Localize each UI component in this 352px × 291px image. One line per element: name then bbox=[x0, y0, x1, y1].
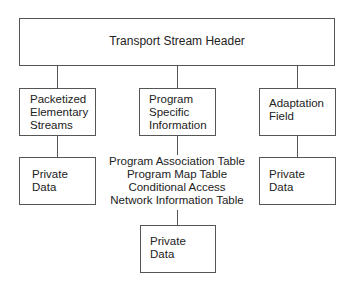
adaptation-private-data-box: Private Data bbox=[259, 157, 336, 205]
psi-private-line-1: Private bbox=[150, 235, 186, 248]
connector-psi-tables bbox=[177, 135, 178, 155]
adaptation-line-1: Adaptation bbox=[269, 97, 324, 110]
pes-line-1: Packetized bbox=[30, 93, 88, 106]
psi-label: Program Specific Information bbox=[149, 93, 207, 132]
psi-private-data-label: Private Data bbox=[150, 235, 186, 261]
psi-table-nit: Network Information Table bbox=[107, 194, 247, 207]
psi-private-data-box: Private Data bbox=[140, 225, 216, 273]
connector-header-adaptation bbox=[297, 65, 298, 88]
psi-box: Program Specific Information bbox=[139, 88, 216, 136]
pes-private-data-box: Private Data bbox=[19, 157, 96, 205]
pes-private-line-1: Private bbox=[32, 168, 68, 181]
pes-box: Packetized Elementary Streams bbox=[19, 88, 96, 136]
adaptation-field-label: Adaptation Field bbox=[269, 97, 324, 123]
psi-table-pat: Program Association Table bbox=[107, 155, 247, 168]
connector-pes-private bbox=[57, 135, 58, 157]
adaptation-line-2: Field bbox=[269, 110, 324, 123]
adaptation-private-line-1: Private bbox=[269, 168, 305, 181]
adaptation-field-box: Adaptation Field bbox=[259, 88, 336, 136]
pes-private-data-label: Private Data bbox=[32, 168, 68, 194]
pes-line-3: Streams bbox=[30, 119, 88, 132]
pes-private-line-2: Data bbox=[32, 181, 68, 194]
psi-tables-list: Program Association Table Program Map Ta… bbox=[107, 155, 247, 207]
connector-header-psi bbox=[177, 65, 178, 88]
transport-stream-header-box: Transport Stream Header bbox=[19, 18, 335, 66]
connector-adaptation-private bbox=[297, 135, 298, 157]
connector-header-pes bbox=[57, 65, 58, 88]
psi-table-pmt: Program Map Table bbox=[107, 168, 247, 181]
pes-line-2: Elementary bbox=[30, 106, 88, 119]
psi-line-1: Program bbox=[149, 93, 207, 106]
adaptation-private-data-label: Private Data bbox=[269, 168, 305, 194]
psi-line-3: Information bbox=[149, 119, 207, 132]
psi-private-line-2: Data bbox=[150, 248, 186, 261]
psi-line-2: Specific bbox=[149, 106, 207, 119]
connector-psi-private bbox=[177, 210, 178, 226]
psi-table-cat: Conditional Access bbox=[107, 181, 247, 194]
transport-stream-header-label: Transport Stream Header bbox=[20, 35, 334, 48]
adaptation-private-line-2: Data bbox=[269, 181, 305, 194]
pes-label: Packetized Elementary Streams bbox=[30, 93, 88, 132]
